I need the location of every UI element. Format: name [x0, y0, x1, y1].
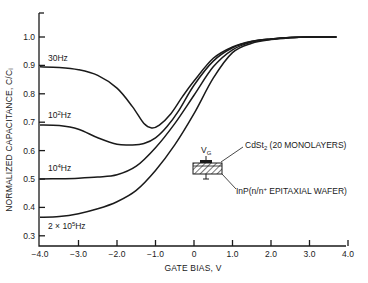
label-1e4hz: 104Hz: [48, 163, 71, 173]
x-tick-label: −2.0: [109, 249, 126, 259]
capacitance-chart: 0.30.40.50.60.70.80.91.0 −4.0−3.0−2.0−1.…: [0, 0, 368, 283]
x-tick-label: −4.0: [32, 249, 49, 259]
wafer-block: [193, 163, 222, 174]
curve-10-4hz: [40, 37, 336, 179]
y-tick-label: 0.5: [23, 174, 35, 184]
y-tick-label: 0.4: [23, 202, 35, 212]
axis-lines: [39, 13, 346, 246]
x-tick-label: 4.0: [342, 249, 354, 259]
y-tick-label: 0.3: [23, 231, 35, 241]
x-tick-label: 2.0: [265, 249, 277, 259]
y-tick-label: 0.6: [23, 146, 35, 156]
y-axis-title: NORMALIZED CAPACITANCE, C/Cᵢ: [4, 68, 14, 212]
y-tick-label: 1.0: [23, 32, 35, 42]
gate-voltage-label: VG: [201, 145, 212, 156]
label-30hz: 30Hz: [48, 53, 68, 63]
cdst-leader-line: [221, 147, 243, 162]
x-tick-label: 1.0: [227, 249, 239, 259]
x-tick-label: −1.0: [147, 249, 164, 259]
x-tick-label: 3.0: [304, 249, 316, 259]
curve-30hz: [40, 37, 336, 128]
cdst-label: CdSt2 (20 MONOLAYERS): [245, 140, 347, 151]
x-tick-label: 0: [192, 249, 197, 259]
x-axis-title: GATE BIAS, V: [164, 263, 221, 273]
y-ticks: 0.30.40.50.60.70.80.91.0: [23, 32, 45, 241]
inp-label: InP(n/n+ EPITAXIAL WAFER): [236, 186, 347, 196]
inp-leader-line: [222, 174, 236, 189]
curve-labels: 30Hz 102Hz 104Hz 2 × 105Hz: [48, 53, 86, 231]
curve-10-2hz: [40, 37, 336, 145]
label-2e5hz: 2 × 105Hz: [48, 221, 86, 231]
label-1e2hz: 102Hz: [48, 110, 71, 120]
x-tick-label: −3.0: [70, 249, 87, 259]
y-tick-label: 0.8: [23, 89, 35, 99]
y-tick-label: 0.9: [23, 60, 35, 70]
device-inset: VG CdSt2 (20 MONOLAYERS) InP(n/n+ EPITAX…: [193, 140, 347, 196]
x-ticks: −4.0−3.0−2.0−1.001.02.03.04.0: [32, 240, 355, 259]
y-tick-label: 0.7: [23, 117, 35, 127]
